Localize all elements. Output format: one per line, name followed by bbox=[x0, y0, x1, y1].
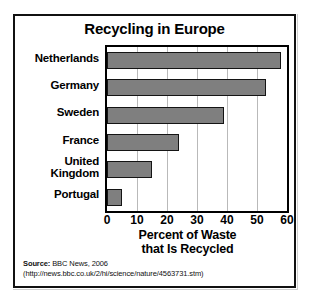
category-label-line1: United bbox=[15, 156, 99, 168]
bar-row bbox=[107, 74, 287, 101]
x-tick-label: 20 bbox=[160, 213, 173, 227]
category-label-line1: Germany bbox=[15, 80, 99, 92]
bar-row bbox=[107, 102, 287, 129]
chart-figure: Recycling in Europe NetherlandsGermanySw… bbox=[13, 14, 296, 288]
source-note: Source: BBC News, 2006 (http://news.bbc.… bbox=[23, 259, 203, 279]
category-label: Sweden bbox=[15, 107, 99, 119]
category-label-line1: Netherlands bbox=[15, 53, 99, 65]
x-tick-label: 60 bbox=[280, 213, 293, 227]
bar bbox=[107, 107, 224, 124]
x-tick-label: 0 bbox=[104, 213, 111, 227]
bar bbox=[107, 189, 122, 206]
x-axis-title-line2: that Is Recycled bbox=[85, 242, 290, 256]
source-url: (http://news.bbc.co.uk/2/hi/science/natu… bbox=[23, 269, 203, 279]
category-label-line1: Portugal bbox=[15, 189, 99, 201]
plot-area bbox=[105, 45, 289, 213]
x-axis-tick-labels: 0102030405060 bbox=[105, 213, 289, 229]
x-tick-label: 10 bbox=[130, 213, 143, 227]
category-label: France bbox=[15, 135, 99, 147]
bar bbox=[107, 134, 179, 151]
category-label: Germany bbox=[15, 80, 99, 92]
source-label: Source: bbox=[23, 259, 50, 268]
bar-row bbox=[107, 129, 287, 156]
bar bbox=[107, 52, 281, 69]
chart-title: Recycling in Europe bbox=[15, 20, 294, 37]
bar-row bbox=[107, 184, 287, 211]
x-tick-label: 50 bbox=[250, 213, 263, 227]
bar-series bbox=[107, 47, 287, 211]
bar-row bbox=[107, 156, 287, 183]
x-tick-label: 40 bbox=[220, 213, 233, 227]
x-tick-label: 30 bbox=[190, 213, 203, 227]
category-label: UnitedKingdom bbox=[15, 156, 99, 179]
category-label-line1: France bbox=[15, 135, 99, 147]
x-axis-title: Percent of Waste that Is Recycled bbox=[85, 228, 290, 256]
category-axis-labels: NetherlandsGermanySwedenFranceUnitedKing… bbox=[15, 45, 103, 213]
source-text: BBC News, 2006 bbox=[50, 259, 108, 268]
category-label-line1: Sweden bbox=[15, 107, 99, 119]
category-label: Portugal bbox=[15, 189, 99, 201]
bar bbox=[107, 79, 266, 96]
bar-row bbox=[107, 47, 287, 74]
bar bbox=[107, 161, 152, 178]
category-label: Netherlands bbox=[15, 53, 99, 65]
category-label-line2: Kingdom bbox=[15, 168, 99, 180]
x-axis-title-line1: Percent of Waste bbox=[85, 228, 290, 242]
